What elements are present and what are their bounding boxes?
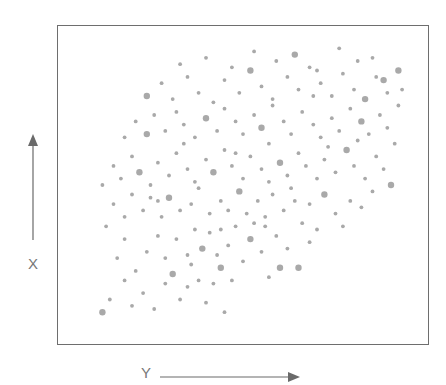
data-point [297,88,301,92]
data-point [234,120,238,124]
data-point [112,202,116,206]
data-point [295,265,301,271]
data-point [258,125,264,131]
data-point [260,167,264,171]
data-point [134,269,138,273]
data-point [236,188,242,194]
data-point [230,164,234,168]
data-point [163,129,167,133]
data-point [241,177,245,181]
data-point [348,107,352,111]
data-point [178,298,182,302]
data-point [123,279,127,283]
data-point [267,275,271,279]
data-point [334,170,338,174]
data-point [226,209,230,213]
data-point [341,224,345,228]
data-point [245,212,249,216]
data-point [252,221,256,225]
data-point [193,180,197,184]
data-point [152,113,156,117]
data-point [274,234,278,238]
data-point [267,180,271,184]
data-point [123,215,127,219]
data-point [108,298,112,302]
data-point [223,107,227,111]
data-point [144,93,150,99]
data-point [237,91,241,95]
data-point [175,110,179,114]
data-point [223,78,227,82]
data-point [292,51,298,57]
data-point [323,158,327,162]
data-point [141,291,145,295]
data-point [112,164,116,168]
data-point [99,309,105,315]
data-point [260,250,264,254]
data-point [308,240,312,244]
data-point [182,123,186,127]
data-point [175,237,179,241]
data-point [319,81,323,85]
data-point [343,147,349,153]
data-point [182,142,186,146]
data-point [277,160,283,166]
data-point [395,67,401,73]
data-point [144,131,150,137]
data-point [208,212,212,216]
vertical-axis-arrow-icon [28,134,38,240]
data-point [326,145,330,149]
data-point [223,310,227,314]
data-point [175,151,179,155]
data-point [197,186,201,190]
data-point [218,265,224,271]
data-point [149,196,153,200]
data-point [371,190,375,194]
data-point [249,155,253,159]
data-point [171,97,175,101]
data-point [378,113,382,117]
data-points [99,46,404,315]
data-point [152,307,156,311]
data-point [315,177,319,181]
data-point [308,202,312,206]
data-point [215,253,219,257]
data-point [252,113,256,117]
data-point [330,94,334,98]
data-point [337,129,341,133]
data-point [230,279,234,283]
data-point [223,148,227,152]
data-point [149,183,153,187]
data-point [230,65,234,69]
data-point [166,195,172,201]
data-point [286,75,290,79]
data-point [297,151,301,155]
data-point [167,174,171,178]
data-point [263,224,267,228]
data-point [311,123,315,127]
data-point [136,169,142,175]
data-point [315,69,319,73]
data-point [241,259,245,263]
data-point [385,91,389,95]
data-point [186,167,190,171]
data-point [282,120,286,124]
data-point [204,158,208,162]
data-point [282,209,286,213]
data-point [193,135,197,139]
data-point [199,245,205,251]
data-point [319,135,323,139]
data-point [189,263,193,267]
data-point [277,265,283,271]
data-point [241,132,245,136]
data-point [271,193,275,197]
data-point [304,164,308,168]
data-point [226,244,230,248]
data-point [300,221,304,225]
data-point [219,199,223,203]
data-point [204,301,208,305]
data-point [374,75,378,79]
data-point [160,81,164,85]
scatter-plot [0,0,446,385]
data-point [178,62,182,66]
